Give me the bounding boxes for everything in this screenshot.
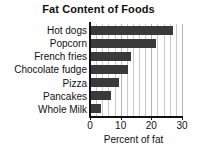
category-label: Popcorn bbox=[50, 38, 87, 49]
bar-row bbox=[90, 90, 182, 103]
x-tick-label: 10 bbox=[109, 120, 133, 131]
category-label: Hot dogs bbox=[47, 25, 87, 36]
category-axis-labels: Hot dogsPopcornFrench friesChocolate fud… bbox=[0, 24, 90, 116]
bar bbox=[90, 26, 173, 35]
category-label: Pizza bbox=[63, 78, 87, 89]
x-axis-title: Percent of fat bbox=[70, 134, 197, 145]
plot-area bbox=[90, 24, 182, 116]
bar-row bbox=[90, 24, 182, 37]
bar bbox=[90, 104, 101, 113]
bar bbox=[90, 78, 119, 87]
x-tick-label: 30 bbox=[170, 120, 194, 131]
bar-row bbox=[90, 103, 182, 116]
gridline bbox=[182, 24, 183, 116]
bar-row bbox=[90, 37, 182, 50]
x-tick-label: 20 bbox=[139, 120, 163, 131]
bar bbox=[90, 52, 131, 61]
category-label: Pancakes bbox=[43, 91, 87, 102]
bar-row bbox=[90, 50, 182, 63]
bar bbox=[90, 65, 128, 74]
x-tick-label: 0 bbox=[78, 120, 102, 131]
chart-title: Fat Content of Foods bbox=[0, 3, 197, 15]
bar bbox=[90, 39, 156, 48]
bar-row bbox=[90, 77, 182, 90]
bar bbox=[90, 91, 111, 100]
bar-chart: Fat Content of Foods Hot dogsPopcornFren… bbox=[0, 0, 197, 152]
bar-row bbox=[90, 63, 182, 76]
category-label: Chocolate fudge bbox=[14, 64, 87, 75]
category-label: French fries bbox=[34, 51, 87, 62]
x-axis-line bbox=[89, 116, 183, 118]
y-axis-line bbox=[89, 22, 91, 118]
category-label: Whole Milk bbox=[38, 104, 87, 115]
